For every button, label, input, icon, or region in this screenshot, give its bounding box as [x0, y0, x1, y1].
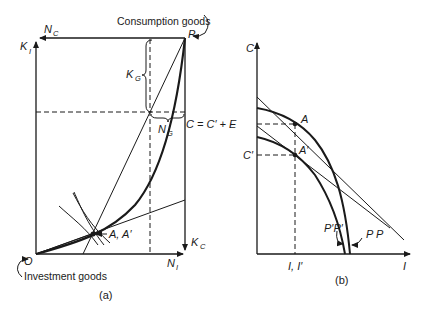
n-i-subscript: I [176, 263, 178, 272]
c-equation-label: C = C′ + E [186, 118, 237, 130]
efficiency-contract-curve-thin [36, 234, 92, 254]
capital-labor-ray-1 [83, 38, 185, 254]
n-c-subscript: C [53, 29, 59, 38]
budget-line-lower [257, 126, 390, 228]
panel-a: Consumption goods P N C K I K G N G K C … [17, 15, 210, 301]
k-g-label: K [126, 68, 134, 80]
point-aprime-marker [293, 153, 298, 158]
k-c-label: K [191, 236, 199, 248]
n-g-brace [151, 114, 184, 122]
panel-b: C C = C′ + E C′ A A′ I, I′ I P′P′ P P (b… [186, 42, 410, 286]
investment-goods-label: Investment goods [24, 270, 107, 282]
aprime-label: A′ [298, 144, 309, 156]
figure: Consumption goods P N C K I K G N G K C … [0, 0, 430, 312]
consumption-goods-label: Consumption goods [117, 15, 210, 27]
a-aprime-label: A, A′ [108, 228, 132, 240]
point-a-marker [293, 122, 298, 127]
efficiency-contract-curve [36, 38, 185, 254]
cprime-label: C′ [243, 149, 254, 161]
k-i-label: K [20, 40, 28, 52]
n-i-label: N [167, 257, 175, 269]
i-iprime-label: I, I′ [288, 260, 303, 272]
k-i-subscript: I [29, 47, 31, 56]
panel-b-caption: (b) [335, 274, 348, 286]
n-c-label: N [44, 23, 52, 35]
c-axis-label: C [246, 42, 254, 54]
pprime-pprime-label: P′P′ [324, 222, 344, 234]
p-label: P [188, 28, 196, 40]
panel-a-caption: (a) [99, 289, 112, 301]
pp-pointer [352, 238, 362, 245]
budget-line-upper [257, 97, 404, 240]
i-axis-label: I [403, 260, 406, 272]
pp-label: P P [366, 228, 384, 240]
a-label: A [300, 113, 308, 125]
point-a-marker [91, 232, 96, 237]
k-g-subscript: G [135, 74, 141, 83]
n-g-label: N [158, 123, 166, 135]
k-c-subscript: C [200, 242, 206, 251]
origin-label: O [24, 255, 33, 267]
n-g-subscript: G [167, 129, 173, 138]
